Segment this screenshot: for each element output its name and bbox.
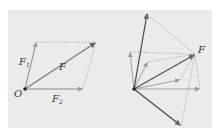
label-f2: F2 xyxy=(51,93,63,105)
component-arrow xyxy=(130,53,134,89)
dashed-line xyxy=(147,14,195,54)
label-resultant-f: F xyxy=(197,44,206,55)
origin-point xyxy=(132,87,136,91)
origin-point xyxy=(23,87,27,91)
label-origin: O xyxy=(14,88,22,99)
force-diagram: F1 F O F2 F xyxy=(0,0,218,138)
component-arrow-dark xyxy=(134,89,180,125)
dashed-line xyxy=(181,54,195,126)
label-f1: F1 xyxy=(18,56,30,68)
label-f: F xyxy=(58,61,67,72)
component-arrow-dark xyxy=(134,14,147,89)
dashed-line xyxy=(195,54,200,89)
left-parallelogram: F1 F O F2 xyxy=(14,42,96,105)
right-multiple-decompositions: F xyxy=(130,14,206,126)
